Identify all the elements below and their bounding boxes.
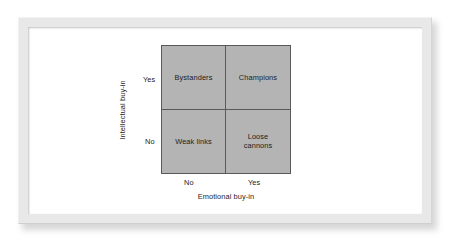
figure-page: Bystanders Champions Weak links Loose ca… (0, 0, 453, 251)
matrix-cell-label-top-right: Champions (239, 73, 277, 82)
matrix-cell-weak-links: Weak links (162, 110, 226, 174)
matrix-grid: Bystanders Champions Weak links Loose ca… (162, 46, 290, 173)
y-axis-title: Intellectual buy-in (118, 0, 127, 62)
matrix-cell-champions: Champions (226, 46, 290, 110)
x-axis-tick-no: No (184, 178, 194, 187)
matrix-cell-label-bottom-left: Weak links (175, 137, 212, 146)
matrix-cell-bystanders: Bystanders (162, 46, 226, 110)
matrix-cell-label-bottom-right: Loose cannons (244, 132, 273, 150)
matrix-cell-loose-cannons: Loose cannons (226, 110, 290, 174)
matrix-cell-label-top-left: Bystanders (175, 73, 213, 82)
y-axis-tick-yes: Yes (143, 75, 155, 84)
y-axis-title-text: Intellectual buy-in (118, 62, 127, 158)
chart-canvas: Bystanders Champions Weak links Loose ca… (0, 0, 453, 251)
x-axis-tick-yes: Yes (248, 178, 260, 187)
x-axis-title: Emotional buy-in (161, 192, 291, 201)
two-by-two-matrix: Bystanders Champions Weak links Loose ca… (161, 45, 291, 174)
y-axis-tick-no: No (145, 137, 155, 146)
